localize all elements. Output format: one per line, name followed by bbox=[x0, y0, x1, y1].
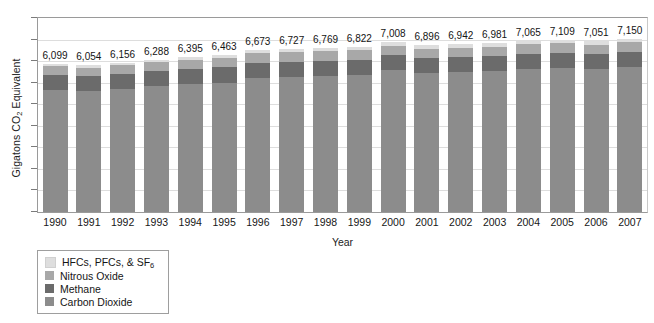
y-axis-tick bbox=[31, 103, 37, 104]
bar-segment-nitrous-oxide bbox=[414, 49, 439, 59]
x-axis-tick-label: 2007 bbox=[616, 216, 644, 232]
bar-column[interactable]: 6,769 bbox=[312, 18, 340, 212]
bar-column[interactable]: 6,896 bbox=[413, 18, 441, 212]
x-axis-tick-label: 2001 bbox=[413, 216, 441, 232]
bar-column[interactable]: 6,288 bbox=[142, 18, 170, 212]
bar-column[interactable]: 6,942 bbox=[447, 18, 475, 212]
bar-column[interactable]: 6,463 bbox=[210, 18, 238, 212]
bar-segment-methane bbox=[245, 63, 270, 78]
bar-segment-methane bbox=[584, 54, 609, 69]
bar-stack bbox=[279, 49, 304, 212]
bar-column[interactable]: 7,109 bbox=[548, 18, 576, 212]
legend-item[interactable]: Carbon Dioxide bbox=[45, 295, 154, 308]
bar-segment-nitrous-oxide bbox=[550, 43, 575, 53]
legend-color-swatch bbox=[45, 284, 54, 293]
bar-stack bbox=[448, 44, 473, 212]
bar-column[interactable]: 7,051 bbox=[582, 18, 610, 212]
legend-item[interactable]: Nitrous Oxide bbox=[45, 269, 154, 282]
bar-segment-methane bbox=[448, 57, 473, 72]
bar-segment-carbon-dioxide bbox=[516, 69, 541, 212]
x-axis-tick-labels: 1990199119921993199419951996199719981999… bbox=[38, 216, 647, 232]
bar-value-label: 6,054 bbox=[76, 51, 101, 62]
bar-stack bbox=[584, 41, 609, 212]
bar-segment-nitrous-oxide bbox=[212, 58, 237, 67]
bar-stack bbox=[516, 41, 541, 212]
bar-column[interactable]: 6,054 bbox=[75, 18, 103, 212]
legend-item-label: Carbon Dioxide bbox=[60, 296, 132, 308]
bar-segment-nitrous-oxide bbox=[516, 44, 541, 54]
bar-segment-carbon-dioxide bbox=[144, 86, 169, 212]
x-axis-tick-label: 1994 bbox=[176, 216, 204, 232]
bar-segment-methane bbox=[381, 55, 406, 70]
bar-segment-carbon-dioxide bbox=[482, 71, 507, 212]
bar-segment-carbon-dioxide bbox=[43, 90, 68, 212]
y-axis-tick bbox=[31, 125, 37, 126]
bar-segment-carbon-dioxide bbox=[617, 67, 642, 213]
bar-value-label: 6,395 bbox=[178, 43, 203, 54]
x-axis-tick-label: 1999 bbox=[345, 216, 373, 232]
y-axis-tick bbox=[31, 60, 37, 61]
bar-stack bbox=[313, 48, 338, 212]
bar-column[interactable]: 6,395 bbox=[176, 18, 204, 212]
x-axis-tick-label: 1997 bbox=[278, 216, 306, 232]
x-axis-tick-label: 1993 bbox=[142, 216, 170, 232]
bar-stack bbox=[110, 63, 135, 212]
x-axis-tick-label: 2000 bbox=[379, 216, 407, 232]
bar-segment-nitrous-oxide bbox=[178, 60, 203, 69]
bar-segment-carbon-dioxide bbox=[279, 77, 304, 212]
bar-value-label: 6,099 bbox=[42, 50, 67, 61]
legend-item-label: Methane bbox=[60, 283, 101, 295]
bar-segment-nitrous-oxide bbox=[245, 53, 270, 63]
y-axis-title-subscript: 2 bbox=[15, 111, 24, 115]
bar-segment-nitrous-oxide bbox=[110, 65, 135, 73]
bar-value-label: 6,896 bbox=[414, 31, 439, 42]
bar-segment-methane bbox=[76, 76, 101, 91]
bar-segment-methane bbox=[347, 60, 372, 75]
x-axis-tick-label: 1991 bbox=[75, 216, 103, 232]
bar-column[interactable]: 6,156 bbox=[109, 18, 137, 212]
legend-item-label: HFCs, PFCs, & SF6 bbox=[62, 256, 154, 270]
bar-value-label: 6,981 bbox=[482, 29, 507, 40]
bar-column[interactable]: 6,981 bbox=[481, 18, 509, 212]
y-axis-tick bbox=[31, 189, 37, 190]
bar-value-label: 6,822 bbox=[347, 33, 372, 44]
bar-column[interactable]: 7,150 bbox=[616, 18, 644, 212]
bar-stack bbox=[550, 40, 575, 212]
bar-segment-methane bbox=[516, 54, 541, 69]
bar-column[interactable]: 6,727 bbox=[278, 18, 306, 212]
bar-segment-nitrous-oxide bbox=[482, 47, 507, 57]
y-axis-tick bbox=[31, 146, 37, 147]
x-axis-tick-label: 1995 bbox=[210, 216, 238, 232]
bar-segment-methane bbox=[212, 67, 237, 82]
bar-column[interactable]: 6,673 bbox=[244, 18, 272, 212]
y-axis-tick bbox=[31, 211, 37, 212]
y-axis-title-tail: Equivalent bbox=[10, 58, 22, 111]
bar-segment-nitrous-oxide bbox=[448, 48, 473, 58]
bar-segment-carbon-dioxide bbox=[212, 83, 237, 212]
bar-value-label: 6,769 bbox=[313, 34, 338, 45]
legend-item-subscript: 6 bbox=[150, 261, 154, 270]
bar-segment-carbon-dioxide bbox=[347, 75, 372, 212]
bar-segment-carbon-dioxide bbox=[584, 69, 609, 212]
bar-segment-methane bbox=[313, 61, 338, 76]
bar-segment-methane bbox=[144, 71, 169, 86]
bar-column[interactable]: 6,822 bbox=[345, 18, 373, 212]
bar-column[interactable]: 6,099 bbox=[41, 18, 69, 212]
legend-color-swatch bbox=[45, 271, 54, 280]
bar-stack bbox=[178, 57, 203, 212]
bar-segment-nitrous-oxide bbox=[43, 66, 68, 74]
bar-stack bbox=[76, 65, 101, 212]
bar-segment-methane bbox=[617, 52, 642, 67]
bar-stack bbox=[43, 64, 68, 212]
bar-column[interactable]: 7,008 bbox=[379, 18, 407, 212]
legend-item[interactable]: HFCs, PFCs, & SF6 bbox=[45, 256, 154, 269]
bar-value-label: 7,008 bbox=[381, 28, 406, 39]
bar-segment-nitrous-oxide bbox=[381, 46, 406, 56]
bar-segment-methane bbox=[178, 69, 203, 84]
x-axis-tick-label: 1996 bbox=[244, 216, 272, 232]
chart-legend: HFCs, PFCs, & SF6Nitrous OxideMethaneCar… bbox=[37, 250, 169, 314]
bar-column[interactable]: 7,065 bbox=[514, 18, 542, 212]
bar-segment-carbon-dioxide bbox=[448, 72, 473, 212]
legend-item[interactable]: Methane bbox=[45, 282, 154, 295]
bar-segment-nitrous-oxide bbox=[279, 52, 304, 62]
